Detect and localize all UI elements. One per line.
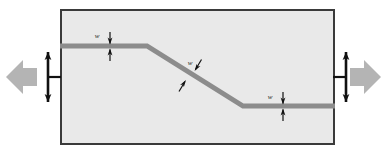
band-width-label-right: w <box>268 93 273 101</box>
load-arrow-right <box>350 60 381 94</box>
figure-container: w w w <box>0 0 387 158</box>
grip-ibeam-left <box>45 52 61 102</box>
band-width-label-left: w <box>95 32 100 40</box>
diagram-canvas: w w w <box>0 0 387 158</box>
load-arrow-left <box>6 60 37 94</box>
grip-ibeam-right <box>333 52 349 102</box>
band-width-label-diagonal: w <box>188 59 193 67</box>
